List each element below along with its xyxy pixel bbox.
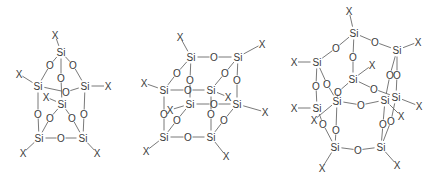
atom-o-label: O bbox=[371, 37, 379, 48]
atom-x-label: X bbox=[319, 163, 326, 174]
bond bbox=[341, 148, 353, 150]
molecule-t6: SiSiSiSiSiSiOOOOOOOOOXXXXXX bbox=[16, 30, 112, 159]
atom-si-label: Si bbox=[186, 99, 195, 110]
bond bbox=[382, 128, 383, 140]
atom-o-label: O bbox=[332, 125, 340, 136]
atom-si-label: Si bbox=[58, 99, 67, 110]
bond bbox=[339, 37, 349, 45]
bond bbox=[75, 69, 82, 80]
bond bbox=[386, 79, 389, 93]
atom-o-label: O bbox=[387, 116, 395, 127]
atom-x-label: X bbox=[416, 101, 423, 112]
atom-si-label: Si bbox=[233, 99, 242, 110]
atom-o-label: O bbox=[334, 87, 342, 98]
bond bbox=[379, 44, 391, 48]
atom-si-label: Si bbox=[350, 28, 359, 39]
atom-si-label: Si bbox=[81, 81, 90, 92]
atom-si-label: Si bbox=[57, 47, 66, 58]
atom-x-label: X bbox=[311, 115, 318, 126]
bond bbox=[350, 15, 353, 27]
bond bbox=[217, 92, 224, 95]
bond bbox=[174, 106, 184, 109]
atom-o-label: O bbox=[62, 87, 70, 98]
atom-si-label: Si bbox=[234, 52, 243, 63]
bond bbox=[325, 128, 332, 141]
bond bbox=[322, 51, 332, 58]
atom-o-label: O bbox=[323, 79, 331, 90]
atom-x-label: X bbox=[177, 32, 184, 43]
atom-si-label: Si bbox=[34, 81, 43, 92]
atom-x-label: X bbox=[291, 57, 298, 68]
bond bbox=[180, 62, 187, 70]
bond bbox=[343, 102, 356, 104]
bond bbox=[149, 141, 159, 149]
atom-x-label: X bbox=[16, 69, 23, 80]
atom-x-label: X bbox=[415, 37, 422, 48]
atom-x-label: X bbox=[43, 92, 50, 103]
atom-o-label: O bbox=[184, 132, 192, 143]
bond bbox=[70, 88, 79, 91]
atom-o-label: O bbox=[34, 109, 42, 120]
bond bbox=[336, 107, 337, 125]
atom-x-label: X bbox=[394, 160, 401, 171]
atom-o-label: O bbox=[370, 84, 378, 95]
atom-si-label: Si bbox=[207, 85, 216, 96]
atom-o-label: O bbox=[312, 81, 320, 92]
bond bbox=[341, 83, 348, 89]
atom-x-label: X bbox=[143, 146, 150, 157]
atom-si-label: Si bbox=[207, 132, 216, 143]
bond bbox=[391, 56, 395, 70]
bond bbox=[22, 76, 32, 82]
atom-o-label: O bbox=[220, 115, 228, 126]
atom-si-label: Si bbox=[160, 85, 169, 96]
atom-si-label: Si bbox=[313, 57, 322, 68]
bond bbox=[396, 79, 397, 90]
atom-o-label: O bbox=[357, 100, 365, 111]
atom-si-label: Si bbox=[331, 142, 340, 153]
bond bbox=[360, 36, 371, 41]
atom-o-label: O bbox=[80, 109, 88, 120]
molecule-t10: SiSiSiSiSiSiSiSiSiSiOOOOOOOOOOOOOOOXXXXX… bbox=[291, 6, 423, 174]
atom-x-label: X bbox=[94, 148, 101, 159]
bond bbox=[403, 43, 414, 47]
atom-x-label: X bbox=[223, 151, 230, 162]
atom-si-label: Si bbox=[377, 142, 386, 153]
bond bbox=[26, 142, 34, 150]
atom-si-label: Si bbox=[349, 74, 358, 85]
atom-o-label: O bbox=[221, 68, 229, 79]
atom-x-label: X bbox=[225, 92, 232, 103]
atom-x-label: X bbox=[105, 81, 112, 92]
atom-si-label: Si bbox=[187, 52, 196, 63]
atom-o-label: O bbox=[57, 133, 65, 144]
atom-si-label: Si bbox=[35, 133, 44, 144]
atom-o-label: O bbox=[207, 109, 215, 120]
atom-o-label: O bbox=[57, 73, 65, 84]
bond bbox=[84, 92, 85, 109]
atom-o-label: O bbox=[68, 113, 76, 124]
bond bbox=[402, 99, 415, 104]
atom-o-label: O bbox=[233, 75, 241, 86]
atom-o-label: O bbox=[349, 52, 357, 63]
atom-x-label: X bbox=[141, 78, 148, 89]
atom-o-label: O bbox=[319, 119, 327, 130]
atom-x-label: X bbox=[398, 111, 405, 122]
bond bbox=[358, 67, 369, 75]
bond bbox=[362, 148, 374, 150]
bond bbox=[243, 106, 261, 111]
atom-o-label: O bbox=[173, 68, 181, 79]
bond bbox=[41, 69, 48, 80]
bond bbox=[38, 118, 39, 131]
atom-o-label: O bbox=[46, 60, 54, 71]
atom-x-label: X bbox=[52, 30, 59, 41]
atom-si-label: Si bbox=[381, 95, 390, 106]
atom-si-label: Si bbox=[313, 103, 322, 114]
bond bbox=[44, 87, 61, 91]
atom-o-label: O bbox=[184, 85, 192, 96]
atom-si-label: Si bbox=[392, 92, 401, 103]
atom-x-label: X bbox=[167, 105, 174, 116]
bond bbox=[359, 82, 370, 87]
bond bbox=[316, 90, 317, 101]
molecule-t8: SiSiSiSiSiSiSiSiOOOOOOOOOOOOXXXXXXXX bbox=[141, 32, 269, 162]
atom-x-label: X bbox=[262, 107, 269, 118]
bond bbox=[148, 84, 158, 88]
